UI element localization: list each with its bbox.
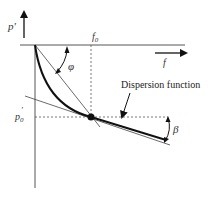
y-axis-label: p'	[7, 20, 17, 32]
dispersion-function-label: Dispersion function	[121, 79, 200, 90]
x-axis-label: f	[163, 57, 167, 68]
f0-label: f0	[92, 31, 99, 44]
phi-label: φ	[68, 60, 74, 72]
p0-prime-mark: '	[21, 106, 23, 115]
dispersion-diagram: p' f f0 p0 ' φ β Dispersion function	[0, 0, 222, 197]
beta-label: β	[172, 123, 179, 135]
tangent-line	[25, 96, 170, 145]
dispersion-curve	[35, 45, 166, 140]
annotation-arrow-icon	[122, 93, 130, 117]
reference-point	[88, 114, 95, 121]
